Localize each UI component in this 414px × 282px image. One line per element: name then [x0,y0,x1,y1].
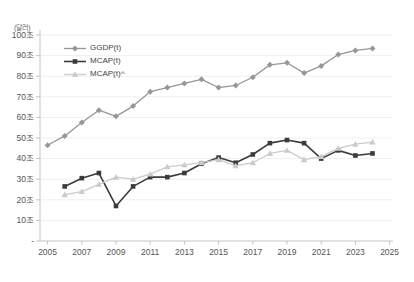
series-GGDP(t)-point [45,142,51,148]
y-tick-label: 50조 [17,133,34,143]
series-MCAP(t)-point [251,152,256,157]
series-GGDP(t)-point [216,85,222,91]
x-tick-label: 2025 [380,247,399,257]
y-tick-label: 70조 [17,92,34,102]
x-tick-label: 2007 [72,247,91,257]
series-MCAP(t)-point [131,184,136,189]
series-GGDP(t)-point [284,60,290,66]
x-tick-label: 2009 [107,247,126,257]
legend-label: MCAP(t)^ [90,69,124,79]
series-GGDP(t)-point [233,82,239,88]
diamond-marker-icon [64,44,86,53]
series-MCAP(t)-point [302,141,307,146]
y-tick-label: 20조 [17,195,34,205]
legend-item-MCAP(t): MCAP(t) [64,56,124,66]
series-MCAP(t)^-point [250,160,256,166]
series-MCAP(t)-point [370,151,375,156]
series-MCAP(t)-point [268,141,273,146]
y-tick-label: 80조 [17,71,34,81]
series-MCAP(t)-point [182,171,187,176]
chart-legend: GGDP(t)MCAP(t)MCAP(t)^ [64,43,124,79]
series-GGDP(t)-point [164,85,170,91]
y-tick-label: 100조 [12,30,34,40]
chart-plot-area: -10조20조30조40조50조60조70조80조90조100조20052007… [0,0,414,282]
series-GGDP(t)-point [181,80,187,86]
series-MCAP(t)-point [165,175,170,180]
series-GGDP(t)-point [352,47,358,53]
legend-label: GGDP(t) [90,43,121,53]
series-GGDP(t)-point [370,45,376,51]
series-MCAP(t)-point [353,153,358,158]
series-MCAP(t)-point [80,176,85,181]
series-MCAP(t)^-point [284,147,290,153]
series-line-MCAP(t) [65,140,373,206]
x-tick-label: 2023 [346,247,365,257]
series-GGDP(t)-point [199,76,205,82]
legend-label: MCAP(t) [90,56,121,66]
series-GGDP(t)-point [301,70,307,76]
series-GGDP(t)-point [113,113,119,119]
legend-item-GGDP(t): GGDP(t) [64,43,124,53]
series-line-MCAP(t)^ [65,142,373,195]
y-tick-label: 10조 [17,215,34,225]
legend-item-MCAP(t)^: MCAP(t)^ [64,69,124,79]
y-tick-label: 60조 [17,112,34,122]
series-MCAP(t)-point [285,138,290,143]
x-tick-label: 2017 [243,247,262,257]
x-tick-label: 2005 [38,247,57,257]
series-MCAP(t)-point [62,184,67,189]
x-tick-label: 2021 [312,247,331,257]
x-tick-label: 2015 [209,247,228,257]
triangle-marker-icon [64,70,86,79]
y-tick-label: 90조 [17,50,34,60]
square-marker-icon [64,57,86,66]
line-chart: (달러) -10조20조30조40조50조60조70조80조90조100조200… [0,0,414,282]
series-MCAP(t)-point [114,204,119,209]
y-tick-label: 40조 [17,153,34,163]
x-tick-label: 2019 [278,247,297,257]
x-tick-label: 2011 [141,247,160,257]
series-MCAP(t)-point [97,171,102,176]
x-tick-label: 2013 [175,247,194,257]
y-tick-label: - [31,236,34,246]
y-tick-label: 30조 [17,174,34,184]
